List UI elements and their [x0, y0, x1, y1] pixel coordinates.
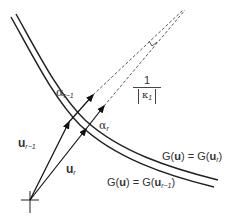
label-contour-G-u-r: G(u) = G(ur) [162, 151, 222, 163]
label-u-r: ur [66, 163, 76, 176]
diagram-canvas: αr−1 αr 1 κ1 ur−1 ur G(u) = G(ur) G(u) =… [0, 0, 231, 219]
vector-u-r-arrow [30, 129, 86, 200]
label-alpha-r-minus-1: αr−1 [56, 87, 74, 99]
label-alpha-r: αr [99, 120, 109, 132]
label-u-r-minus-1: ur−1 [18, 137, 36, 150]
right-angle-marker [149, 41, 157, 46]
fraction-bar [133, 87, 161, 88]
vector-u-r-minus-1-arrow [30, 122, 69, 200]
origin-cross-icon [21, 191, 39, 213]
label-inverse-curvature: 1 κ1 [133, 74, 161, 104]
label-contour-G-u-r-minus-1: G(u) = G(ur−1) [107, 177, 175, 189]
direction-alpha-r-minus-1-arrow [69, 95, 93, 122]
